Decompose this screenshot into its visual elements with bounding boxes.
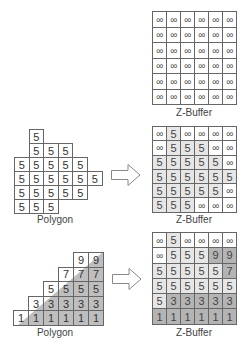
- zbuffer-cell: 7: [223, 264, 237, 279]
- zbuffer-cell: ∞: [195, 28, 209, 44]
- polygon-cell: 3: [73, 296, 89, 312]
- polygon-cell: 5: [29, 129, 45, 144]
- polygon-cell: 5: [43, 143, 59, 158]
- zbuffer-cell: ∞: [209, 198, 223, 212]
- zbuffer-after-polygon2-label: Z-Buffer: [149, 327, 239, 338]
- zbuffer-cell: ∞: [195, 59, 209, 75]
- polygon-cell: 1: [28, 310, 44, 326]
- zbuffer-cell: ∞: [153, 74, 167, 90]
- zbuffer-cell: 5: [195, 170, 209, 184]
- zbuffer-cell: 1: [195, 309, 209, 324]
- zbuffer-initial-label: Z-Buffer: [149, 107, 239, 118]
- zbuffer-after-polygon1-grid: ∞5∞∞∞∞∞555∞∞55555∞55555555555∞555∞∞∞: [152, 126, 237, 213]
- zbuffer-cell: 5: [167, 248, 181, 263]
- polygon-cell: 1: [13, 310, 29, 326]
- zbuffer-cell: 5: [153, 198, 167, 212]
- zbuffer-cell: 5: [153, 294, 167, 309]
- zbuffer-cell: ∞: [223, 184, 237, 198]
- polygon-square-label: Polygon: [10, 214, 100, 225]
- zbuffer-cell: ∞: [195, 198, 209, 212]
- zbuffer-cell: ∞: [223, 90, 237, 106]
- zbuffer-cell: 5: [167, 233, 181, 248]
- polygon-cell: 5: [43, 157, 59, 172]
- zbuffer-cell: 5: [181, 156, 195, 170]
- zbuffer-cell: 3: [223, 294, 237, 309]
- polygon-cell: 1: [58, 310, 74, 326]
- zbuffer-cell: ∞: [223, 28, 237, 44]
- zbuffer-cell: 1: [167, 309, 181, 324]
- polygon-cell: 5: [58, 171, 74, 186]
- zbuffer-cell: ∞: [153, 28, 167, 44]
- zbuffer-cell: 3: [181, 294, 195, 309]
- zbuffer-cell: 3: [209, 294, 223, 309]
- polygon-triangle-label: Polygon: [10, 327, 100, 338]
- zbuffer-cell: ∞: [209, 233, 223, 248]
- zbuffer-cell: 3: [167, 294, 181, 309]
- zbuffer-cell: 5: [167, 264, 181, 279]
- zbuffer-cell: ∞: [209, 28, 223, 44]
- zbuffer-cell: 5: [195, 184, 209, 198]
- zbuffer-cell: 5: [181, 279, 195, 294]
- zbuffer-cell: 5: [167, 184, 181, 198]
- zbuffer-cell: 1: [223, 309, 237, 324]
- zbuffer-cell: ∞: [223, 43, 237, 59]
- zbuffer-cell: ∞: [195, 12, 209, 28]
- polygon-cell: 5: [87, 171, 103, 186]
- zbuffer-cell: ∞: [167, 59, 181, 75]
- zbuffer-cell: 5: [209, 170, 223, 184]
- zbuffer-cell: ∞: [153, 141, 167, 155]
- zbuffer-cell: ∞: [181, 127, 195, 141]
- zbuffer-cell: 5: [209, 264, 223, 279]
- polygon-cell: 1: [73, 310, 89, 326]
- zbuffer-cell: ∞: [181, 59, 195, 75]
- polygon-cell: 9: [88, 252, 104, 268]
- zbuffer-cell: 5: [167, 198, 181, 212]
- zbuffer-after-polygon1-label: Z-Buffer: [149, 214, 239, 225]
- zbuffer-cell: ∞: [223, 198, 237, 212]
- polygon-cell: 5: [72, 171, 88, 186]
- zbuffer-cell: ∞: [209, 74, 223, 90]
- zbuffer-cell: 5: [167, 156, 181, 170]
- zbuffer-cell: ∞: [181, 43, 195, 59]
- zbuffer-cell: 3: [195, 294, 209, 309]
- zbuffer-cell: 5: [153, 264, 167, 279]
- polygon-cell: 3: [43, 296, 59, 312]
- zbuffer-cell: ∞: [223, 74, 237, 90]
- zbuffer-cell: 5: [195, 141, 209, 155]
- zbuffer-cell: ∞: [209, 59, 223, 75]
- polygon-cell: 5: [72, 157, 88, 172]
- zbuffer-cell: 5: [167, 127, 181, 141]
- zbuffer-cell: ∞: [167, 90, 181, 106]
- zbuffer-cell: 5: [209, 156, 223, 170]
- zbuffer-cell: ∞: [209, 12, 223, 28]
- zbuffer-cell: ∞: [153, 248, 167, 263]
- zbuffer-cell: 5: [195, 279, 209, 294]
- zbuffer-cell: 5: [153, 170, 167, 184]
- zbuffer-cell: 5: [181, 141, 195, 155]
- zbuffer-cell: 5: [181, 170, 195, 184]
- zbuffer-cell: ∞: [223, 141, 237, 155]
- polygon-cell: 5: [88, 281, 104, 297]
- zbuffer-cell: ∞: [153, 12, 167, 28]
- zbuffer-cell: 5: [181, 248, 195, 263]
- zbuffer-cell: ∞: [153, 233, 167, 248]
- polygon-cell: 7: [58, 267, 74, 283]
- polygon-cell: 5: [72, 185, 88, 200]
- zbuffer-initial-grid: ∞∞∞∞∞∞∞∞∞∞∞∞∞∞∞∞∞∞∞∞∞∞∞∞∞∞∞∞∞∞∞∞∞∞∞∞: [152, 11, 237, 105]
- zbuffer-cell: ∞: [195, 43, 209, 59]
- zbuffer-cell: 5: [167, 141, 181, 155]
- zbuffer-cell: ∞: [195, 233, 209, 248]
- arrow-right-icon: [111, 267, 143, 291]
- zbuffer-cell: 5: [223, 170, 237, 184]
- polygon-cell: 3: [88, 296, 104, 312]
- zbuffer-cell: ∞: [223, 127, 237, 141]
- zbuffer-cell: 5: [181, 198, 195, 212]
- zbuffer-cell: ∞: [223, 156, 237, 170]
- polygon-cell: 5: [29, 199, 45, 214]
- zbuffer-cell: ∞: [209, 90, 223, 106]
- polygon-cell: 5: [58, 185, 74, 200]
- zbuffer-cell: ∞: [153, 90, 167, 106]
- zbuffer-cell: 9: [223, 248, 237, 263]
- zbuffer-cell: ∞: [223, 233, 237, 248]
- polygon-cell: 5: [14, 171, 30, 186]
